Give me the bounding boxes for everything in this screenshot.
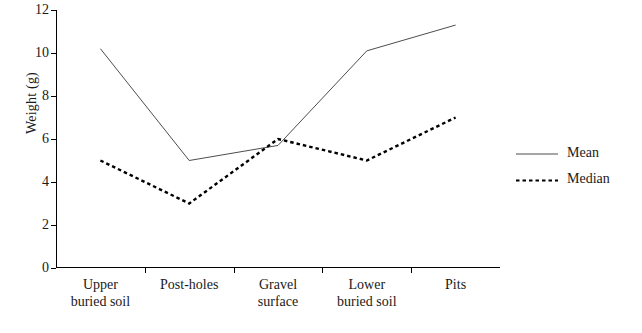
- series-line-median: [100, 118, 455, 204]
- legend-swatch-mean: [516, 147, 558, 159]
- legend-item-mean: Mean: [516, 140, 636, 166]
- legend-swatch-median: [516, 173, 558, 185]
- y-tick-label: 10: [35, 46, 49, 60]
- y-tick-label: 2: [42, 218, 49, 232]
- line-chart: Weight (g) 024681012 Upperburied soilPos…: [0, 0, 642, 333]
- legend-label-median: Median: [567, 171, 610, 187]
- y-tick-label: 0: [42, 261, 49, 275]
- y-tick-label: 6: [42, 132, 49, 146]
- y-tick-label: 4: [42, 175, 49, 189]
- x-tick-label: Pits: [445, 276, 466, 293]
- x-tick-mark: [145, 268, 146, 273]
- legend: Mean Median: [516, 140, 636, 192]
- legend-item-median: Median: [516, 166, 636, 192]
- x-tick-mark: [234, 268, 235, 273]
- x-tick-mark: [322, 268, 323, 273]
- plot-area: 024681012: [56, 10, 500, 268]
- x-tick-label: Post-holes: [160, 276, 218, 293]
- x-tick-label: Upperburied soil: [71, 276, 131, 310]
- x-tick-mark: [411, 268, 412, 273]
- y-tick-label: 8: [42, 89, 49, 103]
- y-tick-mark: [51, 268, 56, 269]
- series-lines: [56, 10, 500, 268]
- x-tick-label: Gravelsurface: [258, 276, 298, 310]
- x-axis-labels: Upperburied soilPost-holesGravelsurfaceL…: [56, 276, 500, 326]
- x-tick-label: Lowerburied soil: [337, 276, 397, 310]
- legend-label-mean: Mean: [567, 145, 599, 161]
- y-tick-label: 12: [35, 3, 49, 17]
